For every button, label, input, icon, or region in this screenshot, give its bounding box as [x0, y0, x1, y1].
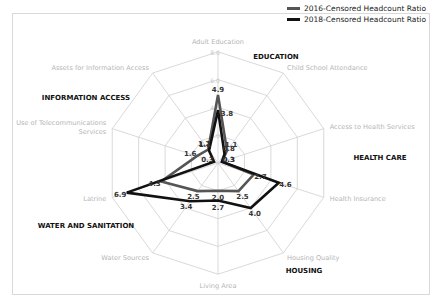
value-label: 1.1 — [199, 141, 212, 149]
legend: 2016-Censored Headcount Ratio 2018-Censo… — [287, 3, 426, 25]
legend-label-2016: 2016-Censored Headcount Ratio — [304, 4, 426, 13]
value-label: 4.3 — [148, 180, 161, 188]
value-label: 0.8 — [222, 145, 235, 153]
value-label: 4.0 — [249, 210, 262, 218]
value-label: 2.0 — [212, 194, 225, 202]
value-label: 2.7 — [212, 204, 225, 212]
axis-label: Use of Telecommunications — [16, 119, 107, 127]
legend-swatch-2016 — [287, 7, 300, 10]
value-label: 0.3 — [222, 156, 235, 164]
axis-label: Access to Health Services — [330, 123, 416, 131]
axis-label: Services — [78, 128, 106, 136]
axis-label: Living Area — [200, 282, 237, 290]
radar-chart: 2.04.06.08.0Adult EducationChild School … — [0, 0, 442, 307]
value-label: 4.6 — [279, 181, 292, 189]
axis-label: Latrine — [83, 195, 106, 203]
value-label: 0.3 — [201, 156, 214, 164]
group-label: HOUSING — [286, 267, 323, 275]
axis-label: Adult Education — [192, 38, 244, 46]
axis-label: Water Sources — [101, 254, 149, 262]
value-label: 2.5 — [236, 193, 249, 201]
ring-label: 6.0 — [210, 77, 220, 84]
ring-label: 8.0 — [210, 49, 220, 56]
value-label: 1.6 — [184, 150, 197, 158]
value-label: 3.4 — [180, 203, 193, 211]
group-label: EDUCATION — [253, 53, 299, 61]
axis-label: Housing Quality — [287, 254, 340, 262]
value-label: 3.8 — [221, 110, 234, 118]
legend-item-2018: 2018-Censored Headcount Ratio — [287, 14, 426, 25]
group-label: INFORMATION ACCESS — [42, 94, 130, 102]
value-label: 2.5 — [187, 193, 200, 201]
group-label: WATER AND SANITATION — [38, 222, 135, 230]
axis-label: Assets for Information Access — [51, 64, 149, 72]
legend-label-2018: 2018-Censored Headcount Ratio — [304, 15, 426, 24]
group-label: HEALTH CARE — [353, 154, 406, 162]
value-label: 2.7 — [254, 173, 267, 181]
value-label: 4.9 — [212, 86, 225, 94]
legend-swatch-2018 — [287, 18, 300, 21]
axis-label: Child School Attendance — [287, 64, 368, 72]
value-label: 6.9 — [114, 191, 127, 199]
axis-label: Health Insurance — [330, 195, 386, 203]
legend-item-2016: 2016-Censored Headcount Ratio — [287, 3, 426, 14]
